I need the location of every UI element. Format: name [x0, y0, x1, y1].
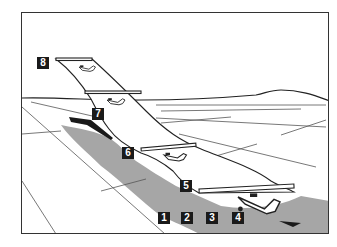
step-marker-4: 4: [232, 212, 244, 224]
step-marker-5: 5: [180, 180, 192, 192]
step-marker-2: 2: [181, 212, 193, 224]
step-marker-6: 6: [122, 147, 134, 159]
step-marker-1: 1: [158, 212, 170, 224]
step-marker-7: 7: [92, 108, 104, 120]
horizon-hills: [22, 90, 329, 101]
step-marker-3: 3: [206, 212, 218, 224]
step-marker-8: 8: [37, 57, 49, 69]
takeoff-scene: [22, 13, 329, 234]
diagram-frame: [21, 12, 329, 234]
